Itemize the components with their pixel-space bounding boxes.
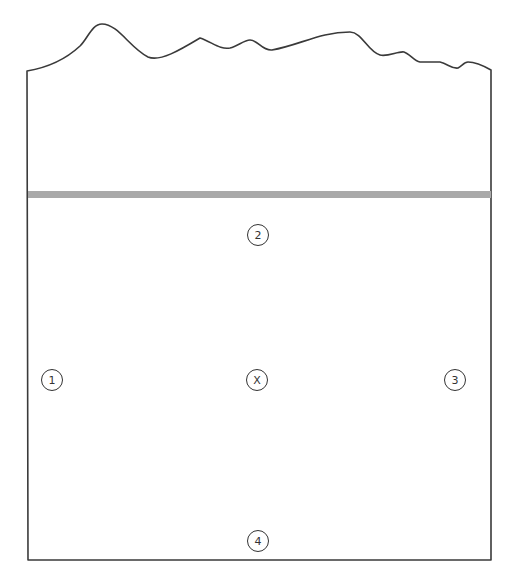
marker-3: 3 (444, 369, 466, 391)
horizontal-band (28, 191, 491, 198)
marker-x-label: X (253, 375, 261, 386)
marker-1: 1 (41, 369, 63, 391)
marker-4-label: 4 (255, 536, 262, 547)
marker-3-label: 3 (452, 375, 459, 386)
marker-x: X (246, 369, 268, 391)
site-diagram (0, 0, 514, 585)
site-outline (27, 24, 491, 560)
marker-4: 4 (247, 530, 269, 552)
marker-2: 2 (247, 224, 269, 246)
marker-2-label: 2 (255, 230, 262, 241)
marker-1-label: 1 (49, 375, 56, 386)
